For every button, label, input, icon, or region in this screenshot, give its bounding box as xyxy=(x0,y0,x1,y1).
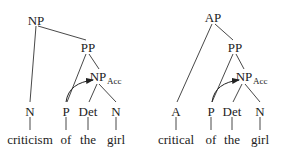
word-the: the xyxy=(80,132,96,147)
node-pp: PP xyxy=(81,40,95,55)
node-np-object: NP xyxy=(90,69,107,84)
syntax-trees-diagram: NP PP NP Acc N P Det N criticism of the … xyxy=(0,0,281,155)
node-p: P xyxy=(62,104,69,119)
node-det: Det xyxy=(223,104,242,119)
edge-np-n xyxy=(30,26,36,102)
edge-npacc-n xyxy=(245,84,260,102)
edge-ap-a xyxy=(177,24,212,102)
word-critical: critical xyxy=(158,132,194,147)
edge-npacc-n xyxy=(99,84,116,102)
edge-pp-p xyxy=(212,54,233,102)
case-subscript-acc: Acc xyxy=(107,76,122,86)
word-of: of xyxy=(61,132,73,147)
node-np-root: NP xyxy=(28,13,45,28)
case-subscript-acc: Acc xyxy=(253,76,268,86)
node-n: N xyxy=(255,104,265,119)
adjective-phrase-tree: AP PP NP Acc A P Det N critical of the g… xyxy=(158,10,269,147)
node-n: N xyxy=(111,104,121,119)
edge-npacc-det xyxy=(233,84,242,102)
node-a-head: A xyxy=(171,104,181,119)
node-np-object: NP xyxy=(236,69,253,84)
edge-ap-pp xyxy=(215,24,233,40)
node-ap-root: AP xyxy=(205,10,222,25)
word-girl: girl xyxy=(251,132,269,147)
edge-pp-npacc xyxy=(89,54,99,69)
node-pp: PP xyxy=(228,40,242,55)
edge-pp-p xyxy=(67,54,86,102)
word-the: the xyxy=(224,132,240,147)
word-of: of xyxy=(206,132,218,147)
node-det: Det xyxy=(79,104,98,119)
noun-phrase-tree: NP PP NP Acc N P Det N criticism of the … xyxy=(7,13,125,147)
node-p: P xyxy=(207,104,214,119)
word-girl: girl xyxy=(107,132,125,147)
edge-pp-npacc xyxy=(236,54,244,69)
node-n-head: N xyxy=(25,104,35,119)
edge-np-pp xyxy=(38,26,86,40)
word-criticism: criticism xyxy=(7,132,53,147)
edge-npacc-det xyxy=(89,84,97,102)
